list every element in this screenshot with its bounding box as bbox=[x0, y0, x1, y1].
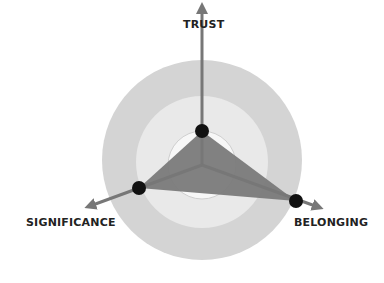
belonging-dot bbox=[289, 194, 303, 208]
significance-dot bbox=[132, 181, 146, 195]
trust-dot bbox=[195, 124, 209, 138]
belonging-label: BELONGING bbox=[294, 216, 368, 229]
radar-diagram bbox=[0, 0, 384, 283]
trust-label: TRUST bbox=[183, 18, 224, 31]
significance-label: SIGNIFICANCE bbox=[26, 216, 116, 229]
